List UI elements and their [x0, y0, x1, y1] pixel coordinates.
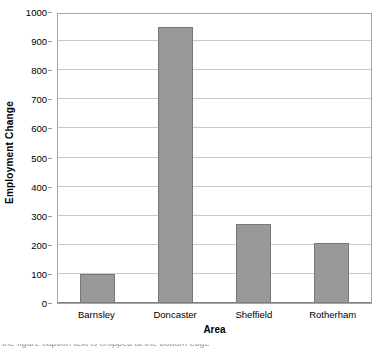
bar-cell — [293, 14, 371, 303]
y-axis-tick-mark — [48, 245, 52, 246]
y-axis-tick-label: 600 — [31, 124, 47, 134]
y-axis-tick-label: 800 — [31, 66, 47, 76]
x-axis-tick-mark — [293, 303, 294, 304]
plot-area — [57, 13, 372, 304]
x-axis-line — [58, 302, 371, 303]
x-axis-tick-label: Sheffield — [215, 308, 294, 322]
bar-cell — [136, 14, 214, 303]
y-axis-tick-mark — [48, 128, 52, 129]
y-axis-tick-mark — [48, 274, 52, 275]
y-axis-tick-labels: 01002003004005006007008009001000 — [18, 13, 52, 304]
y-axis-tick-label: 400 — [31, 183, 47, 193]
bar-chart-figure: Employment Change 0100200300400500600700… — [0, 0, 386, 354]
bar[interactable] — [314, 243, 349, 303]
clipped-caption-text: the figure caption text is cropped at th… — [2, 344, 210, 349]
y-axis-tick-mark — [48, 187, 52, 188]
bar[interactable] — [236, 224, 271, 303]
y-axis-tick-label: 0 — [42, 299, 47, 309]
x-axis-tick-label: Doncaster — [136, 308, 215, 322]
x-axis-tick-mark — [136, 303, 137, 304]
y-axis-tick-label: 300 — [31, 212, 47, 222]
y-axis-tick-label: 100 — [31, 270, 47, 280]
bar[interactable] — [158, 27, 193, 303]
bar-cell — [58, 14, 136, 303]
y-axis-tick-mark — [48, 12, 52, 13]
clipped-caption: the figure caption text is cropped at th… — [0, 344, 386, 354]
y-axis-tick-label: 200 — [31, 241, 47, 251]
bar-cell — [215, 14, 293, 303]
y-axis-tick-mark — [48, 303, 52, 304]
y-axis-tick-mark — [48, 41, 52, 42]
y-axis-tick-mark — [48, 99, 52, 100]
y-axis-tick-label: 900 — [31, 37, 47, 47]
bar-series — [58, 14, 371, 303]
x-axis-tick-label: Barnsley — [57, 308, 136, 322]
y-axis-tick-mark — [48, 158, 52, 159]
y-axis-title: Employment Change — [0, 0, 18, 304]
y-axis-tick-label: 700 — [31, 95, 47, 105]
x-axis-tick-mark — [215, 303, 216, 304]
bar[interactable] — [80, 274, 115, 303]
y-axis-tick-label: 1000 — [26, 8, 47, 18]
y-axis-tick-label: 500 — [31, 154, 47, 164]
x-axis-title: Area — [57, 324, 372, 336]
x-axis-tick-labels: BarnsleyDoncasterSheffieldRotherham — [57, 308, 372, 322]
y-axis-tick-mark — [48, 216, 52, 217]
y-axis-tick-mark — [48, 70, 52, 71]
x-axis-tick-label: Rotherham — [293, 308, 372, 322]
y-axis-title-text: Employment Change — [4, 101, 15, 204]
